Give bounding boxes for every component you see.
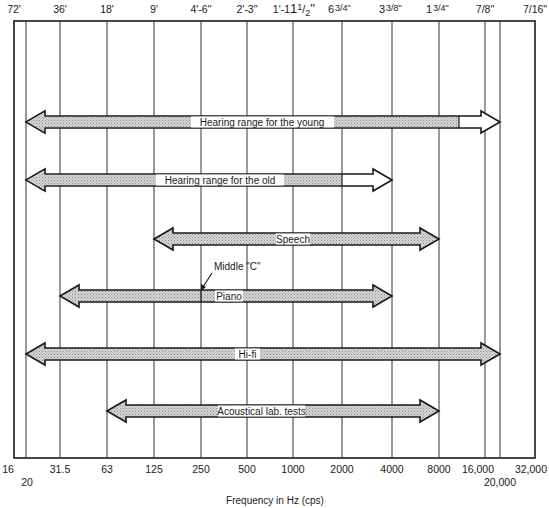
top-label: 1 <box>426 3 432 15</box>
top-label-frac: 11/2" <box>290 1 315 18</box>
arrow-acoustical-lab: Acoustical lab. tests <box>107 400 439 422</box>
arrow-label: Acoustical lab. tests <box>217 406 305 417</box>
middle-c-annotation: Middle "C" <box>201 261 261 291</box>
freq-label: 31.5 <box>50 463 71 475</box>
arrow-speech: Speech <box>154 228 439 250</box>
arrow-hifi: Hi-fi <box>26 343 500 365</box>
arrow-label: Piano <box>216 291 242 302</box>
arrow-hearing-old: Hearing range for the old <box>26 169 392 191</box>
top-label: 2'-3" <box>237 3 258 15</box>
middle-c-label: Middle "C" <box>214 261 261 272</box>
top-label: 4'-6" <box>191 3 212 15</box>
top-axis-labels: 72' 36' 18' 9' 4'-6" 2'-3" 1'-1 11/2" 6 … <box>7 1 547 18</box>
top-label-frac: 3/4" <box>335 3 351 13</box>
arrow-label: Hearing range for the old <box>165 175 276 186</box>
freq-label: 20,000 <box>484 476 516 488</box>
frequency-range-chart: 72' 36' 18' 9' 4'-6" 2'-3" 1'-1 11/2" 6 … <box>0 0 549 508</box>
top-label: 18' <box>100 3 114 15</box>
bottom-axis-labels: 16 20 31.5 63 125 250 500 1000 2000 4000… <box>2 463 547 488</box>
freq-label: 16 <box>2 463 14 475</box>
freq-label: 1000 <box>281 463 305 475</box>
freq-label: 16,000 <box>462 463 494 475</box>
top-label: 3 <box>379 3 385 15</box>
x-axis-title: Frequency in Hz (cps) <box>226 495 324 506</box>
freq-label: 250 <box>192 463 210 475</box>
freq-label: 2000 <box>330 463 354 475</box>
top-label: 7/8" <box>476 3 495 15</box>
freq-label: 20 <box>21 476 33 488</box>
arrow-label: Speech <box>276 234 310 245</box>
top-label: 1'-1 <box>273 3 290 15</box>
top-label-frac: 3/8" <box>386 3 402 13</box>
arrow-label: Hi-fi <box>239 349 257 360</box>
freq-label: 8000 <box>427 463 451 475</box>
top-label: 72' <box>7 3 21 15</box>
freq-label: 63 <box>101 463 113 475</box>
top-label: 7/16" <box>523 3 547 15</box>
freq-label: 32,000 <box>515 463 547 475</box>
arrow-label: Hearing range for the young <box>200 117 325 128</box>
top-label: 9' <box>150 3 158 15</box>
freq-label: 500 <box>238 463 256 475</box>
top-label-frac: 3/4" <box>433 3 449 13</box>
top-label: 36' <box>53 3 67 15</box>
freq-label: 125 <box>145 463 163 475</box>
arrow-hearing-young: Hearing range for the young <box>26 111 500 133</box>
top-label: 6 <box>328 3 334 15</box>
freq-label: 4000 <box>380 463 404 475</box>
